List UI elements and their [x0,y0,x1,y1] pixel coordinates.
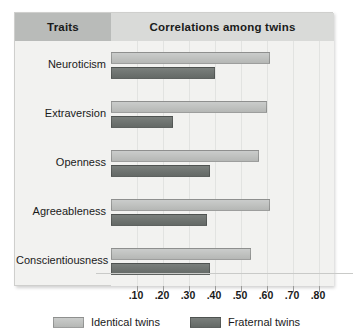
gridline-80 [319,41,320,286]
legend-item-identical: Identical twins [53,316,160,328]
twin-correlation-chart: Traits Correlations among twins .10.20.3… [0,0,353,336]
x-tick-label-20: .20 [155,289,170,301]
x-tick-label-80: .80 [311,289,326,301]
header-cell-correlations: Correlations among twins [111,13,334,41]
bar-extraversion-fraternal [111,116,173,128]
x-tick-label-40: .40 [207,289,222,301]
bar-agreeableness-fraternal [111,214,207,226]
legend-label: Fraternal twins [228,316,300,328]
header-traits-label: Traits [47,21,79,33]
bar-neuroticism-fraternal [111,67,215,79]
x-tick-label-50: .50 [233,289,248,301]
x-tick-label-60: .60 [259,289,274,301]
gridline-70 [293,41,294,286]
header-cell-traits: Traits [15,13,111,41]
chart-panel: Traits Correlations among twins [14,12,333,286]
legend-label: Identical twins [91,316,160,328]
x-tick-label-70: .70 [285,289,300,301]
bar-openness-fraternal [111,165,210,177]
bar-agreeableness-identical [111,199,270,211]
trait-label-openness: Openness [16,156,106,168]
chart-legend: Identical twinsFraternal twins [0,313,353,331]
legend-item-fraternal: Fraternal twins [190,316,300,328]
legend-swatch-icon [53,317,84,328]
plot-area [111,41,334,286]
bar-neuroticism-identical [111,52,270,64]
bar-openness-identical [111,150,259,162]
trait-label-extraversion: Extraversion [16,107,106,119]
bar-conscientiousness-identical [111,248,251,260]
trait-label-agreeableness: Agreeableness [16,205,106,217]
header-correlations-label: Correlations among twins [149,21,295,33]
legend-swatch-icon [190,317,221,328]
x-tick-label-10: .10 [129,289,144,301]
x-axis-line [96,273,353,274]
gridline-60 [267,41,268,286]
trait-label-neuroticism: Neuroticism [16,58,106,70]
x-axis-tick-labels: .10.20.30.40.50.60.70.80 [0,289,353,303]
trait-label-conscientiousness: Conscientiousness [16,254,106,266]
x-tick-label-30: .30 [181,289,196,301]
bar-extraversion-identical [111,101,267,113]
